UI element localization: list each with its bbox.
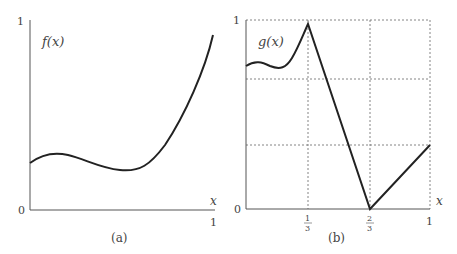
x-tick-1: 1 xyxy=(426,215,433,228)
x-tick-third-den: 3 xyxy=(305,224,310,233)
caption-a: (a) xyxy=(111,231,128,245)
x-axis-label: x xyxy=(436,194,443,208)
y-tick-0: 0 xyxy=(18,204,25,217)
function-label: g(x) xyxy=(258,34,284,49)
function-label: f(x) xyxy=(41,34,64,49)
curve-f xyxy=(30,35,213,170)
x-tick-two-thirds-num: 2 xyxy=(367,214,372,223)
y-tick-1: 1 xyxy=(17,15,24,28)
curve-g xyxy=(246,24,430,209)
y-tick-0: 0 xyxy=(234,203,241,216)
x-axis-label: x xyxy=(210,194,217,208)
panel-a: 1 0 1 x f(x) (a) xyxy=(17,15,217,245)
x-tick-third-num: 1 xyxy=(305,214,310,223)
x-tick-two-thirds-den: 3 xyxy=(367,224,372,233)
caption-b: (b) xyxy=(328,231,345,245)
x-tick-1: 1 xyxy=(210,216,217,229)
panel-b: 1 0 1 3 2 3 1 x g(x) (b) xyxy=(233,14,443,245)
y-tick-1: 1 xyxy=(233,14,240,27)
figure: 1 0 1 x f(x) (a) 1 0 1 3 2 3 1 x g(x) (b… xyxy=(0,0,457,254)
